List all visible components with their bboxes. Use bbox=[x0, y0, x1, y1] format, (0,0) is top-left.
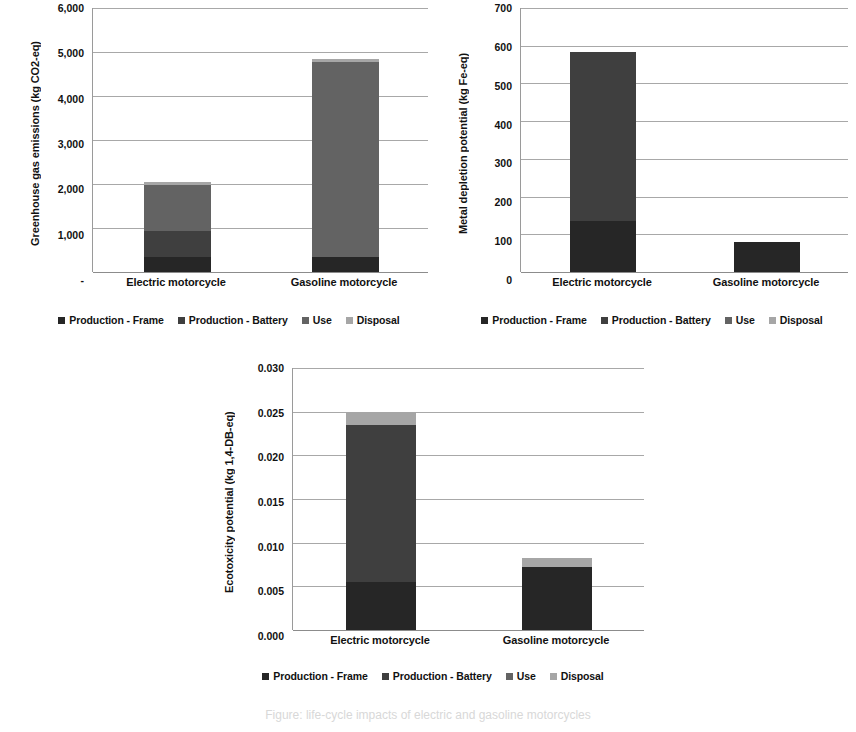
bar-segment-disposal bbox=[346, 412, 416, 425]
y-tick-label: 0.020 bbox=[258, 451, 284, 463]
chart-ecotoxicity: Ecotoxicity potential (kg 1,4-DB-eq) 0.0… bbox=[218, 368, 648, 698]
legend-item-disposal[interactable]: Disposal bbox=[346, 314, 400, 326]
bar-segment-battery bbox=[144, 231, 211, 257]
legend-metal: Production - FrameProduction - BatteryUs… bbox=[452, 314, 852, 326]
y-tick-label: 0.015 bbox=[258, 496, 284, 508]
bar-segment-use bbox=[144, 185, 211, 231]
y-tick-label: 600 bbox=[494, 41, 512, 53]
legend-label: Production - Battery bbox=[393, 670, 492, 682]
legend-swatch-icon bbox=[481, 317, 488, 324]
bar-ecotoxicity-1 bbox=[522, 558, 592, 630]
legend-item-disposal[interactable]: Disposal bbox=[769, 314, 823, 326]
legend-label: Use bbox=[736, 314, 755, 326]
bar-segment-frame bbox=[144, 257, 211, 272]
legend-ecotox: Production - FrameProduction - BatteryUs… bbox=[218, 670, 648, 682]
bar-segment-frame bbox=[570, 221, 636, 272]
legend-item-use[interactable]: Use bbox=[725, 314, 755, 326]
chart-greenhouse-gas: Greenhouse gas emissions (kg CO2-eq) -1,… bbox=[24, 8, 434, 338]
bar-segment-battery bbox=[346, 425, 416, 582]
plot-area-metal bbox=[520, 8, 848, 272]
legend-item-battery[interactable]: Production - Battery bbox=[382, 670, 492, 682]
y-tick-label: 700 bbox=[494, 2, 512, 14]
y-tick-label: 2,000 bbox=[58, 183, 84, 195]
axis-baseline bbox=[93, 272, 428, 273]
bar-ghg-1 bbox=[312, 59, 379, 272]
bar-ghg-0 bbox=[144, 182, 211, 272]
y-tick-label: 0.005 bbox=[258, 585, 284, 597]
bar-segment-use bbox=[312, 62, 379, 257]
legend-label: Use bbox=[313, 314, 332, 326]
plot-area-ghg bbox=[92, 8, 428, 272]
legend-swatch-icon bbox=[382, 673, 389, 680]
legend-swatch-icon bbox=[178, 317, 185, 324]
legend-swatch-icon bbox=[769, 317, 776, 324]
x-axis-category-label: Electric motorcycle bbox=[126, 276, 226, 288]
legend-swatch-icon bbox=[601, 317, 608, 324]
y-tick-label: 0.030 bbox=[258, 362, 284, 374]
bar-segment-frame bbox=[522, 567, 592, 630]
bar-metal-depletion-0 bbox=[570, 52, 636, 272]
axis-baseline bbox=[293, 630, 644, 631]
y-tick-label: 4,000 bbox=[58, 93, 84, 105]
bar-segment-disposal bbox=[522, 558, 592, 568]
gridline bbox=[521, 46, 848, 47]
legend-item-battery[interactable]: Production - Battery bbox=[601, 314, 711, 326]
gridline bbox=[93, 52, 428, 53]
legend-item-use[interactable]: Use bbox=[302, 314, 332, 326]
x-axis-category-label: Gasoline motorcycle bbox=[291, 276, 397, 288]
y-axis-ticks-ecotox: 0.0000.0050.0100.0150.0200.0250.030 bbox=[236, 368, 288, 636]
legend-label: Production - Frame bbox=[273, 670, 367, 682]
bar-segment-frame bbox=[346, 582, 416, 630]
x-axis-category-label: Electric motorcycle bbox=[330, 634, 430, 646]
axis-baseline bbox=[521, 272, 848, 273]
y-tick-label: 3,000 bbox=[58, 138, 84, 150]
chart-area-ecotox: Ecotoxicity potential (kg 1,4-DB-eq) 0.0… bbox=[218, 368, 648, 668]
legend-swatch-icon bbox=[58, 317, 65, 324]
chart-metal-depletion: Metal depletion potential (kg Fe-eq) 010… bbox=[452, 8, 852, 338]
legend-label: Use bbox=[517, 670, 536, 682]
y-tick-label: 500 bbox=[494, 80, 512, 92]
x-axis-category-label: Electric motorcycle bbox=[552, 276, 652, 288]
y-tick-label: 5,000 bbox=[58, 47, 84, 59]
x-axis-category-label: Gasoline motorcycle bbox=[713, 276, 819, 288]
figure-footer-text: Figure: life-cycle impacts of electric a… bbox=[0, 708, 856, 722]
legend-label: Production - Battery bbox=[189, 314, 288, 326]
legend-item-frame[interactable]: Production - Frame bbox=[58, 314, 163, 326]
y-tick-label: 0.025 bbox=[258, 407, 284, 419]
y-tick-label: 1,000 bbox=[58, 229, 84, 241]
legend-label: Production - Frame bbox=[492, 314, 586, 326]
y-tick-label: 400 bbox=[494, 119, 512, 131]
y-axis-label-metal: Metal depletion potential (kg Fe-eq) bbox=[452, 8, 474, 280]
legend-label: Production - Battery bbox=[612, 314, 711, 326]
y-axis-ticks-ghg: -1,0002,0003,0004,0005,0006,000 bbox=[46, 8, 88, 280]
y-tick-label: 6,000 bbox=[58, 2, 84, 14]
x-axis-category-label: Gasoline motorcycle bbox=[503, 634, 609, 646]
bar-metal-depletion-1 bbox=[734, 242, 800, 272]
legend-item-disposal[interactable]: Disposal bbox=[550, 670, 604, 682]
legend-item-battery[interactable]: Production - Battery bbox=[178, 314, 288, 326]
legend-item-use[interactable]: Use bbox=[506, 670, 536, 682]
bar-segment-battery bbox=[570, 52, 636, 221]
y-tick-label: 300 bbox=[494, 157, 512, 169]
legend-item-frame[interactable]: Production - Frame bbox=[481, 314, 586, 326]
y-tick-label: 0 bbox=[506, 274, 512, 286]
gridline bbox=[521, 8, 848, 9]
legend-swatch-icon bbox=[346, 317, 353, 324]
legend-label: Production - Frame bbox=[69, 314, 163, 326]
bar-segment-frame bbox=[734, 242, 800, 272]
y-tick-label: - bbox=[81, 274, 85, 286]
legend-swatch-icon bbox=[550, 673, 557, 680]
legend-label: Disposal bbox=[780, 314, 823, 326]
y-tick-label: 200 bbox=[494, 196, 512, 208]
gridline bbox=[293, 368, 644, 369]
bar-ecotoxicity-0 bbox=[346, 412, 416, 630]
legend-label: Disposal bbox=[561, 670, 604, 682]
legend-item-frame[interactable]: Production - Frame bbox=[262, 670, 367, 682]
chart-area-metal: Metal depletion potential (kg Fe-eq) 010… bbox=[452, 8, 852, 308]
legend-swatch-icon bbox=[725, 317, 732, 324]
legend-swatch-icon bbox=[302, 317, 309, 324]
y-axis-label-ghg: Greenhouse gas emissions (kg CO2-eq) bbox=[24, 8, 46, 280]
legend-swatch-icon bbox=[262, 673, 269, 680]
y-tick-label: 100 bbox=[494, 235, 512, 247]
y-axis-ticks-metal: 0100200300400500600700 bbox=[474, 8, 516, 280]
